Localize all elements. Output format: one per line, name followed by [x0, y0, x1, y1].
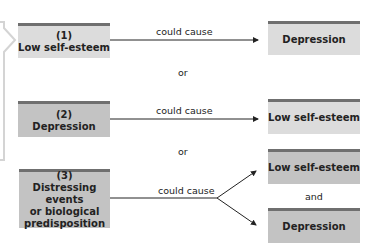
relation-label: could cause: [158, 185, 215, 196]
target-label: Depression: [282, 34, 345, 46]
arrow-row3-down: [217, 198, 256, 225]
source-label-line: or biological: [30, 206, 100, 218]
target-box-3b: Depression: [268, 208, 360, 243]
source-box-1: (1) Low self-esteem: [18, 23, 110, 58]
callout-bracket: [0, 22, 15, 160]
target-label: Depression: [282, 221, 345, 233]
target-box-3a: Low self-esteem: [268, 149, 360, 184]
separator-or: or: [178, 67, 188, 78]
source-number: (3): [56, 170, 72, 182]
source-number: (1): [56, 30, 72, 42]
target-label: Low self-esteem: [268, 162, 360, 174]
source-label: Low self-esteem: [18, 42, 110, 54]
target-box-1: Depression: [268, 21, 360, 55]
source-box-2: (2) Depression: [18, 101, 110, 137]
source-number: (2): [56, 109, 72, 121]
source-label-line: Distressing events: [19, 182, 110, 206]
source-box-3: (3) Distressing events or biological pre…: [19, 169, 110, 228]
source-label-line: predisposition: [24, 218, 105, 230]
target-label: Low self-esteem: [268, 112, 360, 124]
arrow-row3-up: [217, 171, 256, 198]
target-box-2: Low self-esteem: [268, 99, 360, 134]
separator-or: or: [178, 146, 188, 157]
relation-label: could cause: [156, 26, 213, 37]
source-label: Depression: [32, 121, 95, 133]
relation-label: could cause: [156, 105, 213, 116]
conjunction-and: and: [305, 191, 323, 202]
